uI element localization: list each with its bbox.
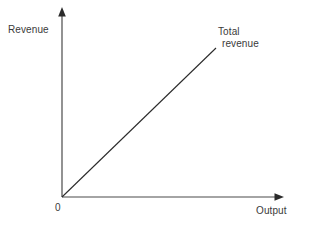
total-revenue-annotation: Totalrevenue (218, 26, 259, 50)
y-axis-label: Revenue (8, 24, 49, 36)
total-revenue-annotation-line-2: revenue (218, 38, 259, 50)
x-axis-label: Output (256, 205, 287, 217)
origin-label: 0 (55, 202, 61, 214)
arrow-up-icon (58, 7, 66, 17)
chart-container: Revenue Output 0 Totalrevenue (0, 0, 311, 225)
arrow-right-icon (275, 193, 285, 201)
total-revenue-annotation-line-1: Total (218, 26, 240, 37)
total-revenue-line (62, 48, 216, 197)
